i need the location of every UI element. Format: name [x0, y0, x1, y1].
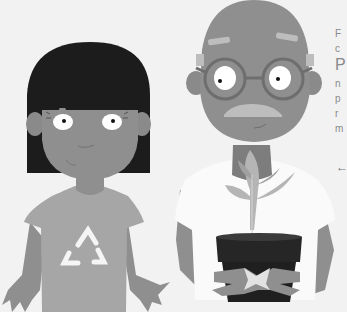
side-text-line-4: n	[335, 76, 347, 91]
girl-left-ear	[26, 112, 44, 136]
girl	[2, 42, 170, 312]
arrow-left-icon: ←	[336, 160, 347, 174]
side-text-line-3: P	[335, 56, 347, 76]
side-text-line-1: F	[335, 26, 347, 41]
side-text-line-5: p	[335, 91, 347, 106]
side-text-line-2: c	[335, 41, 347, 56]
old-man	[175, 0, 335, 302]
side-text-line-7: m	[335, 121, 347, 136]
cropped-side-text: F c P n p r m	[335, 26, 347, 136]
girl-shirt	[24, 186, 144, 312]
illustration	[0, 0, 347, 312]
girl-left-arm	[2, 222, 45, 312]
man-left-eye	[214, 66, 236, 90]
girl-right-arm	[122, 222, 170, 312]
man-right-eye	[269, 66, 291, 90]
side-text-line-6: r	[335, 106, 347, 121]
